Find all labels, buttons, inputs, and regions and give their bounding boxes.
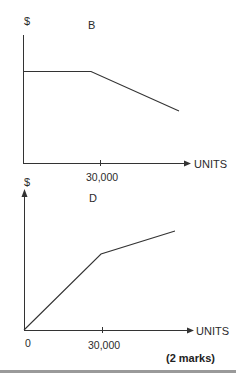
chart-d-y-label: $ — [24, 176, 30, 188]
marks-label: (2 marks) — [166, 352, 215, 364]
chart-b-x-label: UNITS — [194, 158, 227, 170]
chart-b-line — [23, 72, 179, 112]
chart-d-x-arrow-icon — [187, 328, 194, 334]
chart-d-x-label: UNITS — [196, 325, 229, 337]
chart-d-title: D — [89, 192, 97, 204]
chart-d-origin-label: 0 — [25, 337, 31, 349]
chart-d-y-arrow-icon — [22, 189, 28, 197]
chart-d-line — [24, 231, 175, 330]
chart-b-x-arrow-icon — [184, 161, 191, 167]
chart-b-tick-label: 30,000 — [86, 171, 118, 183]
chart-b-plot — [0, 0, 236, 373]
chart-b-title: B — [88, 19, 95, 31]
chart-d-tick-label: 30,000 — [88, 339, 120, 351]
chart-b-y-label: $ — [24, 15, 30, 27]
